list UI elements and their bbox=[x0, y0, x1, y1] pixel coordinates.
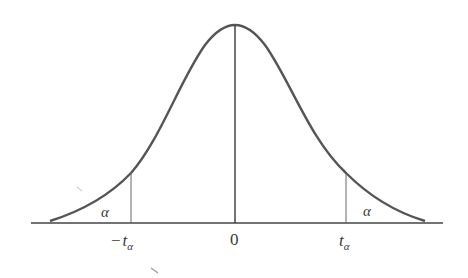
scan-mark bbox=[151, 268, 158, 273]
minus-sign: − bbox=[111, 231, 121, 250]
alpha-subscript: α bbox=[344, 240, 350, 252]
density-curve bbox=[50, 25, 425, 221]
right-tail-alpha-label: α bbox=[363, 203, 372, 219]
alpha-subscript: α bbox=[127, 240, 133, 252]
left-tail-alpha-label: α bbox=[101, 204, 110, 220]
right-critical-label: tα bbox=[339, 231, 350, 252]
left-critical-label: −tα bbox=[111, 231, 133, 252]
zero-label: 0 bbox=[230, 230, 239, 249]
scan-mark bbox=[77, 187, 82, 191]
t-distribution-diagram: α α −tα 0 tα bbox=[0, 0, 468, 278]
